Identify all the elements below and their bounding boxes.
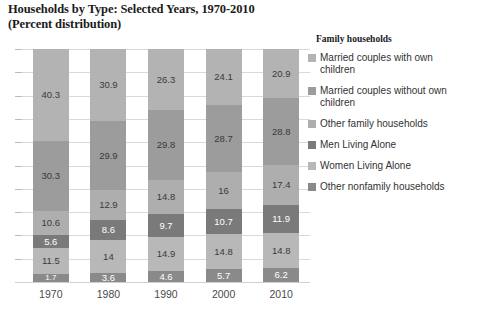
bar-segment-value: 5.6 [44,237,57,247]
stacked-bar-group: 40.330.310.65.611.51.730.929.912.98.6143… [22,49,310,282]
legend-item[interactable]: Married couples with own children [308,52,476,76]
bar-segment[interactable]: 8.6 [90,220,126,240]
x-axis-label-1970: 1970 [33,288,69,300]
legend-item-label: Other nonfamily households [320,181,445,193]
legend-item-label: Women Living Alone [320,160,411,172]
legend-item[interactable]: Other family households [308,118,476,130]
x-axis-label-1980: 1980 [90,288,126,300]
bar-segment[interactable]: 30.9 [90,49,126,121]
bar-segment-value: 29.8 [157,140,176,150]
y-axis-tick [15,166,22,167]
legend-swatch-icon [308,120,316,128]
bar-segment-value: 28.8 [272,127,291,137]
y-axis-tick [15,119,22,120]
bar-segment[interactable]: 14 [90,240,126,273]
bar-segment[interactable]: 16 [206,172,242,209]
legend-item[interactable]: Men Living Alone [308,139,476,151]
bar-segment[interactable]: 10.7 [206,209,242,234]
page-title-line-1: Households by Type: Selected Years, 1970… [8,2,338,17]
bar-segment[interactable]: 9.7 [148,214,184,237]
bar-segment[interactable]: 1.7 [33,274,69,282]
x-axis-label-2000: 2000 [206,288,242,300]
bar-segment-value: 4.6 [159,272,172,282]
bar-segment[interactable]: 17.4 [263,165,299,206]
bar-segment[interactable]: 4.6 [148,271,184,282]
y-axis-tick [15,142,22,143]
bar-segment-value: 17.4 [272,180,291,190]
bar-segment[interactable]: 11.5 [33,248,69,274]
bar-segment[interactable]: 12.9 [90,190,126,220]
bar-column-1970[interactable]: 40.330.310.65.611.51.7 [33,49,69,282]
y-axis-tick [15,212,22,213]
bar-segment-value: 11.5 [42,256,60,266]
bar-segment[interactable]: 40.3 [33,49,69,141]
bar-segment[interactable]: 24.1 [206,49,242,105]
legend-item[interactable]: Women Living Alone [308,160,476,172]
bar-segment[interactable]: 28.7 [206,105,242,172]
y-axis-tick [15,96,22,97]
legend-item[interactable]: Married couples without own children [308,85,476,109]
bar-column-2010[interactable]: 20.928.817.411.914.86.2 [263,49,299,282]
bar-segment[interactable]: 14.8 [148,180,184,214]
page-title-line-2: (Percent distribution) [8,17,338,32]
bar-segment[interactable]: 10.6 [33,211,69,235]
x-axis-label-2010: 2010 [263,288,299,300]
legend-swatch-icon [308,183,316,191]
bar-column-1990[interactable]: 26.329.814.89.714.94.6 [148,49,184,282]
legend-heading: Family households [316,34,476,44]
legend-swatch-icon [308,162,316,170]
bar-segment-value: 3.6 [102,273,115,283]
legend-swatch-icon [308,54,316,62]
bar-segment[interactable]: 14.8 [263,233,299,267]
y-axis-tick [15,259,22,260]
bar-segment[interactable]: 6.2 [263,268,299,282]
bar-segment-value: 16 [218,186,229,196]
bar-segment-value: 14.9 [157,249,176,259]
y-axis-tick [15,49,22,50]
bar-segment[interactable]: 14.9 [148,237,184,272]
bar-segment[interactable]: 28.8 [263,98,299,165]
bar-segment-value: 14.8 [214,247,233,257]
y-axis-tick [15,72,22,73]
legend-items: Married couples with own childrenMarried… [308,52,476,193]
bar-segment[interactable]: 26.3 [148,49,184,110]
bar-segment[interactable]: 5.7 [206,269,242,282]
chart-title-block: Households by Type: Selected Years, 1970… [8,2,338,32]
bar-segment-value: 9.7 [159,221,172,231]
bar-column-1980[interactable]: 30.929.912.98.6143.6 [90,49,126,282]
bar-column-2000[interactable]: 24.128.71610.714.85.7 [206,49,242,282]
legend-swatch-icon [308,141,316,149]
bar-segment[interactable]: 29.9 [90,121,126,190]
bar-segment[interactable]: 3.6 [90,273,126,283]
bar-segment-value: 5.7 [217,271,230,281]
bar-segment-value: 11.9 [272,214,290,224]
legend-item-label: Other family households [320,118,428,130]
y-axis-tick [15,189,22,190]
chart-plot-area: 40.330.310.65.611.51.730.929.912.98.6143… [22,49,310,282]
bar-segment-value: 40.3 [42,90,61,100]
x-axis-label-1990: 1990 [148,288,184,300]
bar-segment-value: 14.8 [157,192,176,202]
legend-swatch-icon [308,87,316,95]
bar-segment-value: 26.3 [157,75,176,85]
bar-segment-value: 30.3 [42,171,61,181]
bar-segment-value: 14 [103,252,114,262]
legend-item-label: Married couples with own children [320,52,470,76]
legend-item[interactable]: Other nonfamily households [308,181,476,193]
bar-segment-value: 29.9 [99,151,118,161]
bar-segment[interactable]: 5.6 [33,235,69,248]
bar-segment[interactable]: 14.8 [206,234,242,268]
bar-segment-value: 14.8 [272,246,291,256]
bar-segment[interactable]: 29.8 [148,110,184,179]
bar-segment-value: 10.6 [42,218,61,228]
bar-segment[interactable]: 11.9 [263,205,299,233]
legend-item-label: Married couples without own children [320,85,470,109]
bar-segment[interactable]: 30.3 [33,141,69,210]
bar-segment-value: 30.9 [99,80,118,90]
bar-segment-value: 6.2 [275,270,288,280]
bar-segment-value: 8.6 [102,225,115,235]
bar-segment-value: 10.7 [214,217,233,227]
bar-segment-value: 28.7 [214,134,233,144]
bar-segment-value: 24.1 [214,72,233,82]
bar-segment[interactable]: 20.9 [263,49,299,98]
